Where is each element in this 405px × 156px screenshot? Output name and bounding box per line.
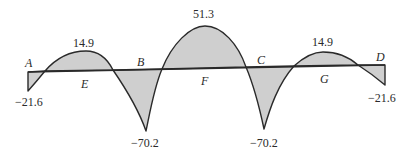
region-negative-A: [28, 71, 45, 91]
value-support-B: −70.2: [131, 136, 159, 150]
point-label-G: G: [320, 72, 329, 86]
value-left-support: −21.6: [15, 95, 43, 109]
point-label-C: C: [257, 53, 266, 67]
point-label-D: D: [375, 50, 385, 64]
region-negative-D: [358, 65, 385, 85]
value-span-3-max: 14.9: [312, 35, 333, 49]
value-right-support: −21.6: [368, 91, 396, 105]
point-label-E: E: [80, 77, 89, 91]
value-span-1-max: 14.9: [73, 36, 94, 50]
region-positive-span-3: [294, 52, 358, 66]
value-support-C: −70.2: [250, 136, 278, 150]
point-label-F: F: [200, 74, 209, 88]
region-positive-span-1: [45, 51, 113, 71]
bending-moment-diagram: A E B F C G D −21.6 14.9 −70.2 51.3 −70.…: [0, 0, 405, 156]
point-label-B: B: [137, 55, 145, 69]
point-label-A: A: [24, 56, 33, 70]
region-negative-B: [113, 69, 162, 131]
value-span-2-max: 51.3: [193, 7, 214, 21]
region-negative-C: [246, 66, 294, 129]
region-positive-span-2: [162, 26, 246, 69]
